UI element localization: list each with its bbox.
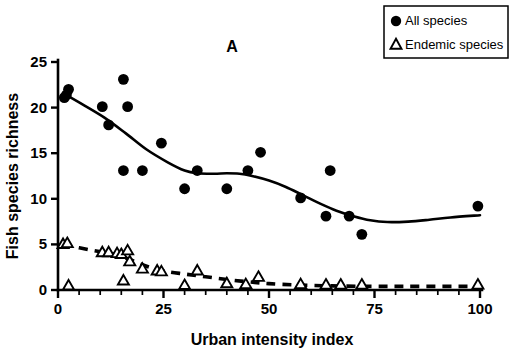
data-point-triangle [320, 279, 331, 289]
x-axis-title: Urban intensity index [191, 331, 354, 348]
data-point-circle [325, 165, 336, 176]
data-point-circle [221, 183, 232, 194]
data-point-circle [179, 183, 190, 194]
data-point-circle [472, 201, 483, 212]
data-point-triangle [472, 279, 483, 289]
data-point-circle [61, 89, 72, 100]
figure-container: 05101520250255075100 A Urban intensity i… [0, 0, 512, 354]
x-tick-label: 50 [261, 300, 278, 317]
x-tick-label: 100 [467, 300, 492, 317]
data-point-triangle [356, 279, 367, 289]
data-point-circle [356, 229, 367, 240]
data-point-circle [321, 211, 332, 222]
data-point-circle [192, 165, 203, 176]
x-tick-label: 25 [155, 300, 172, 317]
data-point-circle [97, 101, 108, 112]
legend-marker-circle [391, 16, 401, 26]
data-point-triangle [63, 280, 74, 290]
y-axis-title: Fish species richness [4, 93, 21, 259]
data-point-circle [118, 74, 129, 85]
y-tick-label: 25 [30, 53, 47, 70]
data-point-circle [122, 101, 133, 112]
legend-label-0: All species [405, 13, 468, 28]
y-tick-label: 10 [30, 190, 47, 207]
data-point-circle [295, 192, 306, 203]
data-point-triangle [122, 245, 133, 255]
scatter-plot: 05101520250255075100 A Urban intensity i… [0, 0, 512, 354]
x-tick-label: 75 [366, 300, 383, 317]
legend-label-1: Endemic species [405, 37, 504, 52]
data-point-circle [118, 165, 129, 176]
x-tick-label: 0 [54, 300, 62, 317]
y-tick-label: 0 [39, 281, 47, 298]
data-point-triangle [192, 265, 203, 275]
data-point-circle [103, 120, 114, 131]
data-point-triangle [179, 280, 190, 290]
panel-label: A [226, 38, 238, 55]
data-point-triangle [253, 271, 264, 281]
data-point-circle [344, 211, 355, 222]
data-point-circle [156, 138, 167, 149]
data-point-triangle [118, 275, 129, 285]
data-point-circle [137, 165, 148, 176]
trend-line-0 [64, 94, 480, 222]
y-tick-label: 5 [39, 235, 47, 252]
y-tick-label: 20 [30, 99, 47, 116]
legend: All speciesEndemic species [384, 6, 508, 58]
data-point-triangle [335, 279, 346, 289]
y-tick-label: 15 [30, 144, 47, 161]
data-point-circle [255, 147, 266, 158]
data-point-circle [243, 165, 254, 176]
